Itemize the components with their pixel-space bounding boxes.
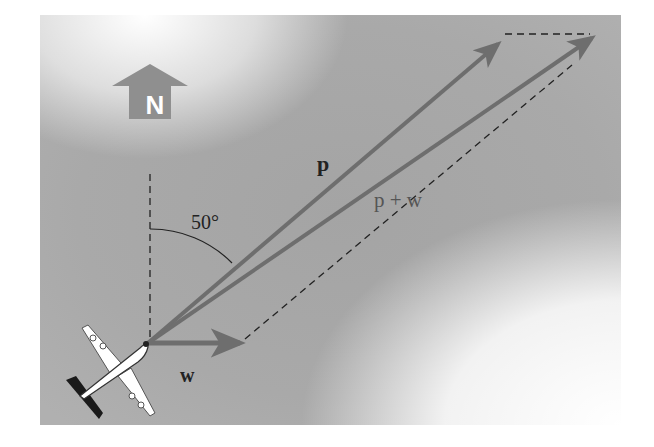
- diagram-canvas: [0, 0, 654, 447]
- vector-diagram: N p p + w w 50°: [0, 0, 654, 447]
- vector-w-label: w: [180, 365, 194, 385]
- north-label: N: [140, 90, 170, 121]
- vector-p-plus-w-label: p + w: [374, 190, 422, 211]
- vector-p-label: p: [317, 153, 329, 175]
- angle-label: 50°: [191, 212, 219, 232]
